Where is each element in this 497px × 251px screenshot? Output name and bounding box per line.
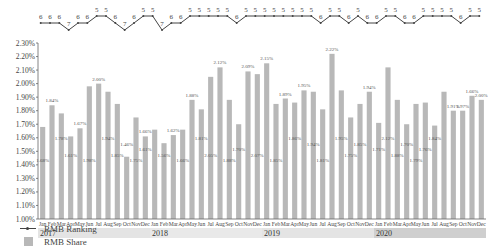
rank-point <box>320 22 322 24</box>
share-bar <box>124 157 129 219</box>
x-tick-label: Apr <box>178 221 187 227</box>
bar-top-label: 1.84% <box>46 98 59 103</box>
rank-point <box>161 29 163 31</box>
x-tick-label: Feb <box>272 221 281 227</box>
rank-point <box>189 15 191 17</box>
bar-top-label: 2.12% <box>214 60 227 65</box>
rank-label: 6 <box>48 13 52 21</box>
bar-mid-label: 1.88% <box>223 158 236 163</box>
bar-mid-label: 1.75% <box>344 153 357 158</box>
rank-label: 5 <box>394 6 398 14</box>
rank-label: 5 <box>198 6 202 14</box>
bar-mid-label: 1.84% <box>428 136 441 141</box>
share-bar <box>283 99 288 219</box>
y-tick-label: 1.20% <box>16 187 35 196</box>
bar-top-label: 1.89% <box>279 92 292 97</box>
year-label: 2018 <box>152 229 168 238</box>
share-bar <box>180 130 185 219</box>
y-axis: 1.00%1.10%1.20%1.30%1.40%1.50%1.60%1.70%… <box>16 39 38 224</box>
bar-mid-label: 1.94% <box>307 142 320 147</box>
x-tick-label: Nov <box>355 221 365 227</box>
rank-point <box>282 15 284 17</box>
bar-top-label: 2.00% <box>92 77 105 82</box>
share-bar <box>217 67 222 219</box>
share-bar <box>189 100 194 219</box>
bar-top-label: 1.94% <box>363 85 376 90</box>
share-bar <box>320 109 325 219</box>
bar-mid-label: 1.81% <box>316 158 329 163</box>
rank-label: 6 <box>366 13 370 21</box>
rank-point <box>245 15 247 17</box>
rank-label: 5 <box>263 6 267 14</box>
share-bar <box>105 92 110 219</box>
rank-label: 5 <box>384 6 388 14</box>
rank-point <box>301 15 303 17</box>
rank-point <box>338 15 340 17</box>
share-bar <box>385 67 390 219</box>
rank-point <box>226 15 228 17</box>
rank-label: 6 <box>39 13 43 21</box>
rank-point <box>413 22 415 24</box>
rank-label: 5 <box>226 6 230 14</box>
share-bar <box>423 103 428 219</box>
legend: RMB Ranking RMB Share <box>20 222 97 248</box>
share-bar <box>236 124 241 219</box>
bar-top-label: 2.22% <box>326 47 339 52</box>
x-tick-label: Jul <box>207 221 214 227</box>
rank-label: 6 <box>132 13 136 21</box>
rank-label: 6 <box>86 13 90 21</box>
rank-point <box>208 15 210 17</box>
x-tick-label: May <box>187 221 197 227</box>
rank-label: 5 <box>328 6 332 14</box>
bar-mid-label: 2.07% <box>251 153 264 158</box>
bar-mid-label: 1.81% <box>195 136 208 141</box>
rank-label: 6 <box>76 13 80 21</box>
rank-label: 6 <box>459 13 463 21</box>
x-tick-label: Dec <box>477 221 487 227</box>
rank-point <box>105 15 107 17</box>
rank-label: 5 <box>142 6 146 14</box>
rank-point <box>86 22 88 24</box>
x-tick-label: Sep <box>337 221 346 227</box>
x-tick-label: Aug <box>327 221 337 227</box>
rank-point <box>180 22 182 24</box>
x-tick-label: Aug <box>215 221 225 227</box>
rank-point <box>254 15 256 17</box>
rank-point <box>170 22 172 24</box>
rank-label: 5 <box>478 6 482 14</box>
share-bar <box>479 100 484 219</box>
x-tick-label: Oct <box>347 221 356 227</box>
x-tick-label: Jul <box>431 221 438 227</box>
legend-label-ranking: RMB Ranking <box>44 224 97 234</box>
rank-point <box>217 15 219 17</box>
x-tick-label: May <box>299 221 309 227</box>
rank-point <box>441 15 443 17</box>
rank-label: 5 <box>356 6 360 14</box>
bar-mid-label: 1.95% <box>335 136 348 141</box>
bar-top-label: 1.97% <box>456 104 469 109</box>
rank-point <box>96 15 98 17</box>
rank-point <box>49 22 51 24</box>
bar-mid-label: 1.61% <box>139 147 152 152</box>
y-tick-label: 1.60% <box>16 133 35 142</box>
year-band: 2017201820192020 <box>38 228 486 238</box>
rank-label: 5 <box>188 6 192 14</box>
rank-label: 5 <box>338 6 342 14</box>
rank-point <box>198 15 200 17</box>
rank-label: 7 <box>160 20 164 28</box>
rank-point <box>469 15 471 17</box>
rank-point <box>40 22 42 24</box>
y-tick-label: 1.10% <box>16 201 35 210</box>
rank-label: 6 <box>114 13 118 21</box>
bar-mid-label: 1.88% <box>391 153 404 158</box>
x-tick-label: Mar <box>393 221 402 227</box>
bar-mid-label: 2.05% <box>204 153 217 158</box>
rank-point <box>450 15 452 17</box>
x-tick-label: Sep <box>449 221 458 227</box>
share-bar <box>395 100 400 219</box>
bar-value-labels: 1.68%1.84%1.78%1.61%1.67%1.98%2.00%1.94%… <box>36 47 488 163</box>
rank-point <box>133 22 135 24</box>
share-bar <box>404 124 409 219</box>
x-tick-label: Jul <box>319 221 326 227</box>
rank-point <box>422 15 424 17</box>
